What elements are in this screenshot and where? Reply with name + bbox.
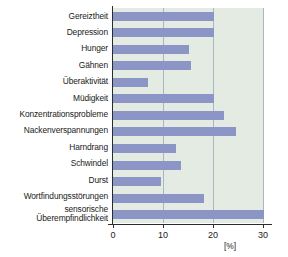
category-label-nackenverspannungen: Nackenverspannungen [0,123,112,139]
x-tick-label-10: 10 [158,230,168,240]
category-label-ueberaktivitaet: Überaktivität [0,74,112,90]
category-label-wortfindungsstoerungen: Wortfindungsstörungen [0,188,112,204]
x-tick-label-30: 30 [258,230,268,240]
bar-wortfindungsstoerungen [113,194,204,203]
category-label-konzentrationsprobleme: Konzentrationsprobleme [0,106,112,122]
x-tick-mark-30 [263,224,264,228]
bar-depression [113,28,214,37]
bars-container [113,8,264,223]
bar-durst [113,177,161,186]
y-axis-line [112,6,113,225]
bar-hunger [113,45,189,54]
bar-konzentrationsprobleme [113,111,224,120]
x-tick-mark-20 [213,224,214,228]
category-label-harndrang: Harndrang [0,139,112,155]
bar-sensorische-ueberempfindlichkeit [113,210,264,219]
x-axis-unit-label: [%] [224,241,236,251]
bar-row [113,74,264,91]
x-tick-label-0: 0 [110,230,115,240]
x-tick-mark-0 [113,224,114,228]
category-label-sensorische-ueberempfindlichkeit: sensorische Überempfindlichkeit [0,205,112,223]
bar-row [113,91,264,108]
bar-row [113,124,264,141]
bar-gaehnen [113,61,191,70]
category-label-schwindel: Schwindel [0,156,112,172]
x-tick-mark-10 [163,224,164,228]
category-label-gaehnen: Gähnen [0,57,112,73]
bar-muedigkeit [113,94,214,103]
bar-schwindel [113,161,181,170]
x-tick-label-20: 20 [208,230,218,240]
bar-row [113,107,264,124]
category-label-durst: Durst [0,172,112,188]
bar-row [113,58,264,75]
bar-row [113,25,264,42]
category-label-hunger: Hunger [0,41,112,57]
bar-row [113,8,264,25]
bar-row [113,206,264,223]
bar-row [113,190,264,207]
category-axis-labels: Gereiztheit Depression Hunger Gähnen Übe… [0,8,112,223]
x-axis-line [108,224,272,225]
bar-row [113,173,264,190]
bar-ueberaktivitaet [113,78,148,87]
gridline-30 [263,8,264,223]
bar-row [113,157,264,174]
bar-row [113,41,264,58]
bar-nackenverspannungen [113,127,236,136]
bar-chart-figure: Gereiztheit Depression Hunger Gähnen Übe… [0,0,288,257]
bar-row [113,140,264,157]
category-label-depression: Depression [0,24,112,40]
category-label-muedigkeit: Müdigkeit [0,90,112,106]
plot-area [113,8,264,223]
bar-harndrang [113,144,176,153]
category-label-gereiztheit: Gereiztheit [0,8,112,24]
bar-gereiztheit [113,12,214,21]
